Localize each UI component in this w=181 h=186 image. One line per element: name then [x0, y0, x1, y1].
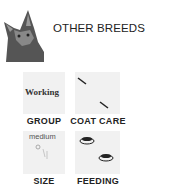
- group-label: GROUP: [18, 116, 70, 126]
- group-value: Working: [25, 87, 59, 97]
- cat-photo: [4, 8, 48, 62]
- coat-care-label: COAT CARE: [68, 116, 128, 126]
- size-label: SIZE: [18, 176, 70, 186]
- page-title: OTHER BREEDS: [53, 22, 145, 34]
- size-value: medium: [29, 132, 56, 141]
- comb-icon: [76, 74, 120, 114]
- food-bowl-icon: [77, 133, 119, 173]
- feeding-label: FEEDING: [68, 176, 128, 186]
- size-icon: [33, 143, 53, 163]
